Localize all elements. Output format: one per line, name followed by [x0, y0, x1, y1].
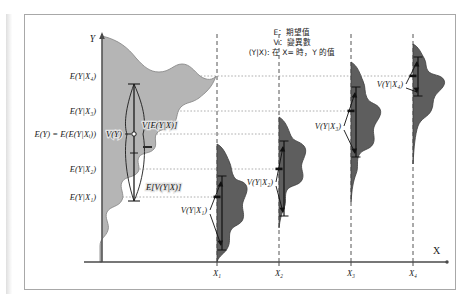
annotation-e-v-y-x: E[V(Y|X)] — [145, 182, 181, 192]
x-label-x4: X₄ — [408, 268, 417, 278]
conditional-mean-markers — [214, 75, 417, 199]
annotation-v-y-x3: V(Y|X₃) — [315, 121, 341, 131]
statistics-diagram: Y X E(Y|X₄) E(Y|X₃) E(Y) = E(E(Y|Xᵢ)) E(… — [24, 14, 454, 288]
conditional-axes — [217, 34, 413, 262]
legend-item-v: V：變異數 — [273, 37, 310, 47]
mean-marker-marginal — [132, 132, 136, 136]
x-axis-endpoint — [445, 260, 448, 263]
y-label-e-y-x2: E(Y|X₂) — [69, 164, 96, 174]
y-label-e-y-x4: E(Y|X₄) — [69, 71, 96, 81]
scan-edge-white — [0, 0, 6, 304]
legend-item-yx: (Y|X): 在 X= 時，Y 的值 — [249, 47, 336, 57]
annotation-v-y-x2: V(Y|X₂) — [247, 177, 273, 187]
annotation-v-e-y-x: V[E(Y|X)] — [142, 120, 177, 130]
inner-tick-mark — [143, 146, 152, 148]
y-label-e-y-x1: E(Y|X₁) — [69, 192, 96, 202]
y-label-e-y-x3: E(Y|X₃) — [69, 106, 96, 116]
legend: E：期望值 V：變異數 (Y|X): 在 X= 時，Y 的值 — [249, 27, 336, 57]
x-label-x3: X₃ — [346, 268, 355, 278]
annotation-v-y: V(Y) — [106, 129, 122, 139]
x-axis-label: X — [433, 245, 441, 256]
annotation-v-y-x1: V(Y|X₁) — [181, 205, 207, 215]
marginal-distribution-area — [100, 36, 216, 262]
scanned-page: Y X E(Y|X₄) E(Y|X₃) E(Y) = E(E(Y|Xᵢ)) E(… — [0, 0, 469, 304]
y-axis-arrow — [99, 32, 105, 39]
legend-item-e: E：期望值 — [274, 27, 311, 37]
x-label-x2: X₂ — [274, 268, 283, 278]
y-axis-label: Y — [90, 34, 97, 44]
annotation-v-y-x4: V(Y|X₄) — [377, 79, 403, 89]
x-label-x1: X₁ — [212, 268, 221, 278]
y-label-e-y-mean: E(Y) = E(E(Y|Xᵢ)) — [33, 129, 96, 139]
